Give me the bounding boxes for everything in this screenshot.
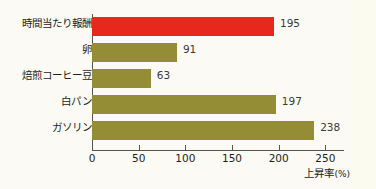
bar <box>92 43 177 62</box>
x-axis-tick-label: 0 <box>89 152 96 165</box>
bar <box>92 95 276 114</box>
x-axis-tick-label: 250 <box>315 152 335 165</box>
x-axis-tick <box>185 145 186 151</box>
bar-value-label: 195 <box>280 14 300 33</box>
x-axis-tick <box>139 145 140 151</box>
bar-value-label: 91 <box>183 40 196 59</box>
category-label: 白パン <box>0 92 92 111</box>
x-axis-line <box>92 150 344 151</box>
bar-row: 焙煎コーヒー豆63 <box>0 66 376 92</box>
bar-row: 時間当たり報酬195 <box>0 14 376 40</box>
bar-value-label: 197 <box>282 92 302 111</box>
plot-area: 時間当たり報酬195卵91焙煎コーヒー豆63白パン197ガソリン238 0501… <box>0 0 376 189</box>
bar <box>92 17 274 36</box>
bar-value-label: 63 <box>157 66 170 85</box>
x-axis-title: 上昇率(%) <box>304 166 350 181</box>
bar-value-label: 238 <box>320 118 340 137</box>
bar <box>92 69 151 88</box>
bar-row: 白パン197 <box>0 92 376 118</box>
x-axis-tick-label: 200 <box>269 152 289 165</box>
x-axis-tick-label: 50 <box>132 152 145 165</box>
x-axis-tick <box>325 145 326 151</box>
category-label: ガソリン <box>0 118 92 137</box>
category-label: 時間当たり報酬 <box>0 14 92 33</box>
x-axis-unit: (%) <box>334 169 350 179</box>
category-label: 焙煎コーヒー豆 <box>0 66 92 85</box>
x-axis-tick <box>279 145 280 151</box>
bar-chart: 時間当たり報酬195卵91焙煎コーヒー豆63白パン197ガソリン238 0501… <box>0 0 376 189</box>
bar-row: ガソリン238 <box>0 118 376 144</box>
x-axis-tick <box>92 145 93 151</box>
x-axis-title-text: 上昇率 <box>304 167 334 179</box>
x-axis-tick-label: 150 <box>222 152 242 165</box>
category-label: 卵 <box>0 40 92 59</box>
bar <box>92 121 314 140</box>
x-axis-tick <box>232 145 233 151</box>
x-axis-tick-label: 100 <box>175 152 195 165</box>
bar-row: 卵91 <box>0 40 376 66</box>
